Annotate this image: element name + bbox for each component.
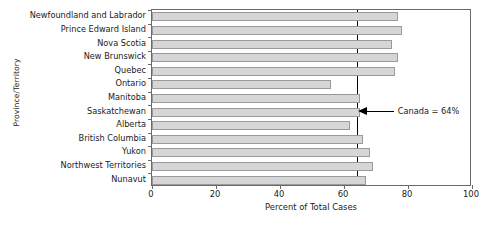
y-axis-tick-label: Saskatchewan <box>14 107 146 116</box>
y-axis-tick-mark <box>148 10 152 11</box>
y-axis-tick-mark <box>148 64 152 65</box>
x-axis-tick-label: 100 <box>456 189 486 199</box>
annotation-leader-line <box>367 111 394 112</box>
bar <box>152 121 350 130</box>
y-axis-tick-mark <box>148 24 152 25</box>
annotation-arrowhead <box>358 107 367 115</box>
bar <box>152 108 360 117</box>
y-axis-tick-label: Alberta <box>14 120 146 129</box>
bar <box>152 148 370 157</box>
bar <box>152 80 331 89</box>
x-axis-tick-label: 0 <box>136 189 166 199</box>
y-axis-tick-mark <box>148 160 152 161</box>
y-axis-tick-label: Prince Edward Island <box>14 25 146 34</box>
bar <box>152 40 392 49</box>
y-axis-tick-mark <box>148 105 152 106</box>
bar <box>152 12 398 21</box>
y-axis-tick-mark <box>148 173 152 174</box>
y-axis-tick-label: Newfoundland and Labrador <box>14 11 146 20</box>
y-axis-tick-label: Yukon <box>14 147 146 156</box>
bar <box>152 53 398 62</box>
y-axis-tick-label: Nova Scotia <box>14 39 146 48</box>
x-axis-tick-label: 40 <box>264 189 294 199</box>
y-axis-tick-label: New Brunswick <box>14 52 146 61</box>
y-axis-tick-mark <box>148 78 152 79</box>
bar <box>152 135 363 144</box>
bar <box>152 67 395 76</box>
x-axis-tick-label: 60 <box>328 189 358 199</box>
y-axis-tick-label: Manitoba <box>14 93 146 102</box>
x-axis-title: Percent of Total Cases <box>151 202 471 212</box>
y-axis-tick-mark <box>148 133 152 134</box>
y-axis-tick-label: Northwest Territories <box>14 161 146 170</box>
y-axis-tick-label: Nunavut <box>14 175 146 184</box>
bar-chart: Province/Territory Newfoundland and Labr… <box>0 0 488 229</box>
canada-average-annotation: Canada = 64% <box>398 106 459 116</box>
y-axis-tick-mark <box>148 119 152 120</box>
y-axis-tick-mark <box>148 37 152 38</box>
plot-area <box>151 9 471 186</box>
y-axis-tick-mark <box>148 51 152 52</box>
y-axis-tick-labels: Newfoundland and LabradorPrince Edward I… <box>16 9 149 186</box>
bar <box>152 162 373 171</box>
bar <box>152 94 360 103</box>
y-axis-tick-mark <box>148 146 152 147</box>
y-axis-tick-label: British Columbia <box>14 134 146 143</box>
bar <box>152 176 366 185</box>
x-axis-tick-label: 80 <box>392 189 422 199</box>
bar <box>152 26 402 35</box>
y-axis-tick-mark <box>148 92 152 93</box>
y-axis-tick-label: Quebec <box>14 66 146 75</box>
y-axis-tick-label: Ontario <box>14 79 146 88</box>
x-axis-tick-label: 20 <box>200 189 230 199</box>
